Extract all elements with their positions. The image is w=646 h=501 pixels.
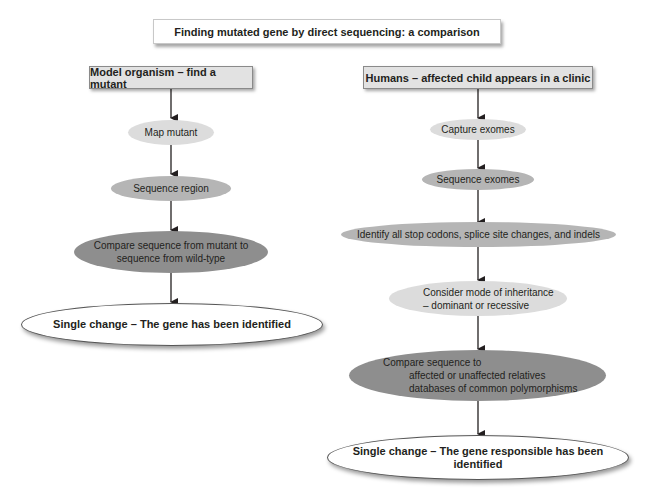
diagram-title: Finding mutated gene by direct sequencin… — [153, 19, 501, 44]
step-label-line1: Consider mode of inheritance — [423, 286, 554, 299]
step-label-line2: – dominant or recessive — [423, 299, 529, 312]
step-label: Map mutant — [145, 126, 198, 139]
step-label-line2: sequence from wild-type — [117, 252, 225, 265]
step-compare-to-relatives: Compare sequence to affected or unaffect… — [349, 350, 606, 401]
step-label-line2: affected or unaffected relatives — [383, 369, 545, 382]
left-result: Single change – The gene has been identi… — [21, 303, 323, 346]
step-label: Identify all stop codons, splice site ch… — [357, 228, 600, 241]
step-mode-of-inheritance: Consider mode of inheritance – dominant … — [389, 281, 567, 316]
step-compare-sequence: Compare sequence from mutant to sequence… — [74, 231, 268, 273]
step-capture-exomes: Capture exomes — [430, 119, 526, 140]
right-result: Single change – The gene responsible has… — [327, 435, 629, 480]
step-label: Capture exomes — [441, 123, 514, 136]
step-label-line1: Compare sequence to — [383, 356, 481, 369]
step-map-mutant: Map mutant — [128, 120, 214, 145]
step-label: Sequence region — [133, 182, 209, 195]
left-column-header: Model organism – find a mutant — [89, 66, 253, 89]
step-sequence-region: Sequence region — [111, 176, 231, 201]
step-label-line1: Compare sequence from mutant to — [94, 239, 249, 252]
step-identify-variants: Identify all stop codons, splice site ch… — [341, 222, 616, 247]
right-column-header: Humans – affected child appears in a cli… — [363, 66, 593, 89]
step-label-line3: databases of common polymorphisms — [383, 382, 577, 395]
step-sequence-exomes: Sequence exomes — [422, 169, 534, 190]
step-label: Sequence exomes — [437, 173, 520, 186]
